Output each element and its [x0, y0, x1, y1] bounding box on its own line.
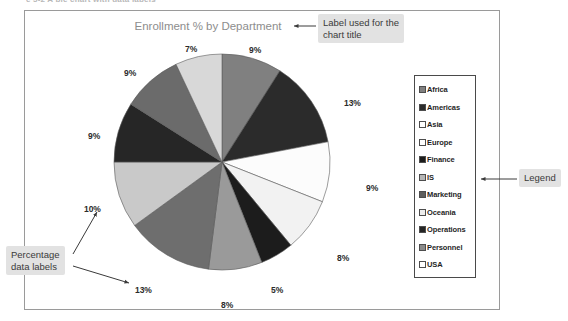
- chart-title: Enrollment % by Department: [118, 20, 298, 32]
- legend-swatch-icon: [419, 121, 426, 128]
- legend-item[interactable]: Finance: [419, 151, 475, 169]
- pie-data-label: 9%: [124, 68, 136, 78]
- legend-item[interactable]: Americas: [419, 99, 475, 117]
- pie-data-label: 9%: [88, 131, 100, 141]
- pie-data-label: 9%: [366, 183, 378, 193]
- chart-legend[interactable]: AfricaAmericasAsiaEuropeFinanceISMarketi…: [414, 75, 476, 278]
- legend-item[interactable]: Marketing: [419, 186, 475, 204]
- legend-swatch-icon: [419, 86, 426, 93]
- pie-data-label: 13%: [344, 98, 361, 108]
- legend-item-label: Oceania: [427, 208, 455, 217]
- pie-data-label: 5%: [271, 285, 283, 295]
- legend-swatch-icon: [419, 244, 426, 251]
- legend-item[interactable]: IS: [419, 169, 475, 187]
- legend-swatch-icon: [419, 209, 426, 216]
- annotation-chart-title-callout: Label used for the chart title: [318, 14, 404, 43]
- annotation-pct-line2: data labels: [11, 261, 60, 273]
- annotation-data-labels-callout: Percentage data labels: [6, 246, 65, 275]
- legend-item-label: Europe: [427, 138, 452, 147]
- pie-data-label: 8%: [221, 300, 233, 310]
- legend-item-label: Americas: [427, 103, 460, 112]
- legend-item[interactable]: Operations: [419, 221, 475, 239]
- annotation-pct-line1: Percentage: [11, 249, 60, 261]
- legend-swatch-icon: [419, 104, 426, 111]
- legend-item[interactable]: USA: [419, 256, 475, 274]
- legend-item-label: Personnel: [427, 243, 462, 252]
- legend-item[interactable]: Asia: [419, 116, 475, 134]
- legend-item-label: Finance: [427, 155, 455, 164]
- legend-item[interactable]: Africa: [419, 81, 475, 99]
- legend-item-label: Asia: [427, 120, 442, 129]
- legend-swatch-icon: [419, 156, 426, 163]
- annotation-title-line1: Label used for the: [323, 17, 399, 29]
- legend-swatch-icon: [419, 174, 426, 181]
- legend-item-label: Operations: [427, 225, 466, 234]
- annotation-title-line2: chart title: [323, 29, 399, 41]
- pie-data-label: 8%: [337, 253, 349, 263]
- annotation-legend-callout: Legend: [519, 169, 561, 187]
- legend-swatch-icon: [419, 139, 426, 146]
- legend-item[interactable]: Oceania: [419, 204, 475, 222]
- figure-caption: e 5-2 A pie chart with data labels: [26, 0, 156, 2]
- legend-item[interactable]: Europe: [419, 134, 475, 152]
- pie-data-label: 7%: [185, 44, 197, 54]
- legend-item-label: USA: [427, 260, 443, 269]
- legend-swatch-icon: [419, 226, 426, 233]
- pie-data-label: 13%: [135, 285, 152, 295]
- pie-chart[interactable]: [112, 52, 332, 272]
- pie-data-label: 9%: [249, 45, 261, 55]
- legend-item-label: Marketing: [427, 190, 462, 199]
- legend-swatch-icon: [419, 191, 426, 198]
- legend-item-label: IS: [427, 173, 434, 182]
- pie-data-label: 10%: [84, 204, 101, 214]
- legend-item[interactable]: Personnel: [419, 239, 475, 257]
- pie-chart-svg: [112, 52, 332, 272]
- legend-item-label: Africa: [427, 85, 448, 94]
- legend-swatch-icon: [419, 261, 426, 268]
